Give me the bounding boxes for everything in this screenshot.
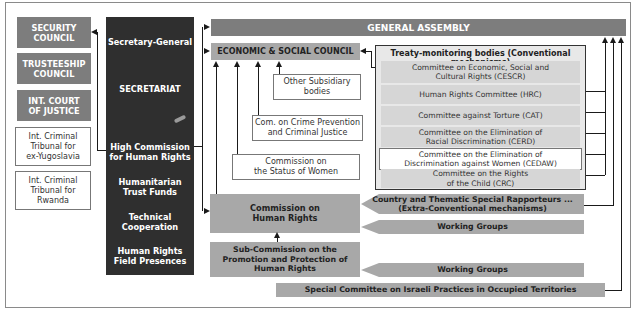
- arrow-left-icon: [91, 29, 97, 35]
- connector: [258, 66, 259, 115]
- arrow-up-icon: [618, 37, 624, 43]
- working-groups-subcommission: Working Groups: [361, 263, 584, 277]
- arrow-right-icon: [204, 208, 210, 214]
- arrow-up-icon: [213, 61, 219, 67]
- high-commission-label: High Commission for Human Rights: [106, 142, 194, 162]
- connector: [202, 27, 203, 211]
- connector: [586, 154, 605, 155]
- special-committee-box: Special Committee on Israeli Practices i…: [276, 283, 605, 297]
- connector: [194, 146, 202, 147]
- secretariat-column: Secretary-General SECRETARIAT High Commi…: [106, 17, 194, 275]
- other-subsidiary-bodies-box: Other Subsidiary bodies: [273, 74, 361, 100]
- connector: [605, 42, 606, 175]
- arrow-right-icon: [204, 48, 210, 54]
- treaty-item-cat: Committee against Torture (CAT): [381, 106, 580, 125]
- treaty-item-cerd: Committee on the Elimination of Racial D…: [381, 127, 580, 147]
- ecosoc-box: ECONOMIC & SOCIAL COUNCIL: [211, 43, 360, 60]
- icty-box: Int. Criminal Tribunal for ex-Yugoslavia: [15, 127, 91, 166]
- working-groups-commission: Working Groups: [361, 220, 584, 234]
- connector: [586, 175, 605, 176]
- treaty-bodies-panel: Treaty-monitoring bodies (Conventional m…: [375, 45, 586, 190]
- secretariat-label: SECRETARIAT: [106, 84, 194, 94]
- arrow-up-icon: [234, 61, 240, 67]
- connector: [605, 290, 622, 291]
- secretary-general-label: Secretary-General: [106, 37, 194, 47]
- pen-icon: [174, 115, 187, 124]
- arrow-up-icon: [610, 37, 616, 43]
- connector: [586, 133, 605, 134]
- arrow-up-icon: [255, 61, 261, 67]
- treaty-item-crc: Committee on the Rights of the Child (CR…: [381, 169, 580, 188]
- security-council-box: SECURITY COUNCIL: [17, 17, 91, 48]
- treaty-item-cescr: Committee on Economic, Social and Cultur…: [381, 61, 580, 83]
- connector: [586, 91, 605, 92]
- status-of-women-box: Commission on the Status of Women: [232, 154, 360, 180]
- arrow-up-icon: [276, 61, 282, 67]
- arrow-left-icon: [360, 48, 366, 54]
- connector: [216, 66, 217, 194]
- connector: [371, 67, 375, 68]
- connector: [237, 66, 238, 154]
- technical-cooperation-label: Technical Cooperation: [106, 212, 194, 232]
- humanitarian-trust-funds-label: Humanitarian Trust Funds: [106, 177, 194, 197]
- treaty-item-hrc: Human Rights Committee (HRC): [381, 85, 580, 104]
- connector: [586, 112, 605, 113]
- connector: [584, 205, 614, 206]
- special-rapporteurs-box: Country and Thematic Special Rapporteurs…: [361, 194, 584, 214]
- commission-human-rights-box: Commission on Human Rights: [210, 194, 360, 233]
- connector: [621, 42, 622, 290]
- sub-commission-box: Sub-Commission on the Promotion and Prot…: [210, 242, 360, 277]
- field-presences-label: Human Rights Field Presences: [106, 246, 194, 266]
- connector: [97, 150, 106, 151]
- trusteeship-council-box: TRUSTEESHIP COUNCIL: [17, 53, 91, 84]
- connector: [613, 42, 614, 205]
- arrow-up-icon: [602, 37, 608, 43]
- arrow-up-icon: [274, 232, 280, 238]
- crime-prevention-box: Com. on Crime Prevention and Criminal Ju…: [252, 115, 363, 141]
- treaty-item-cedaw: Committee on the Elimination of Discrimi…: [379, 148, 582, 170]
- connector: [279, 66, 280, 74]
- connector: [371, 51, 372, 67]
- icj-box: INT. COURT OF JUSTICE: [17, 90, 91, 121]
- ictr-box: Int. Criminal Tribunal for Rwanda: [15, 171, 91, 210]
- general-assembly-box: GENERAL ASSEMBLY: [211, 19, 626, 36]
- arrow-right-icon: [204, 24, 210, 30]
- connector: [97, 32, 98, 150]
